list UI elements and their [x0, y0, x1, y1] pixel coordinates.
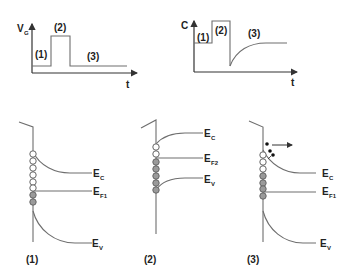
ev-label-sub: V [211, 181, 215, 187]
vg-y-label-sub: G [24, 30, 29, 36]
ev-label: E [204, 174, 211, 185]
empty-state [260, 166, 266, 172]
vg-phase-1: (1) [35, 49, 47, 60]
ec-label-sub: C [329, 175, 334, 181]
dlts-diagram: V G t (1) (2) (3) C t (1) (2) (3) [0, 0, 351, 278]
c-y-label: C [181, 20, 188, 31]
empty-state [30, 179, 36, 185]
diagram-1-label: (1) [26, 254, 38, 265]
filled-state [153, 159, 159, 165]
empty-state [30, 158, 36, 164]
band-diagram-3: E C E F1 E V (3) [247, 121, 337, 265]
c-recovery-transient [230, 43, 287, 66]
interface-states [30, 151, 36, 205]
ef-label: E [204, 153, 211, 164]
empty-state [30, 151, 36, 157]
empty-state [153, 144, 159, 150]
filled-state [260, 173, 266, 179]
ec-label: E [204, 128, 211, 139]
ec-label-sub: C [100, 175, 105, 181]
valence-band-edge [263, 211, 316, 243]
empty-state [30, 185, 36, 191]
electron-dot [271, 153, 275, 157]
filled-state [260, 180, 266, 186]
ef-label-sub: F1 [329, 193, 337, 199]
filled-state [30, 192, 36, 198]
diagram-3-label: (3) [247, 254, 259, 265]
vg-x-label: t [126, 79, 130, 90]
vg-y-label: V [17, 23, 24, 34]
diagram-2-label: (2) [144, 254, 156, 265]
band-diagram-1: E C E F1 E V (1) [19, 122, 108, 265]
ev-label-sub: V [99, 245, 103, 251]
c-x-label: t [291, 77, 295, 88]
filled-state [30, 199, 36, 205]
c-phase-1: (1) [197, 32, 209, 43]
ec-label-sub: C [211, 135, 216, 141]
vg-phase-3: (3) [87, 51, 99, 62]
filled-state [260, 186, 266, 192]
filled-state [153, 166, 159, 172]
empty-state [260, 152, 266, 158]
valence-band-edge [33, 211, 92, 243]
band-diagram-2: E C E F2 E V (2) [141, 120, 219, 265]
filled-state [153, 173, 159, 179]
empty-state [30, 165, 36, 171]
empty-state [260, 159, 266, 165]
ef-label-sub: F2 [211, 160, 219, 166]
emitted-electrons [265, 142, 292, 159]
interface-states [153, 144, 159, 193]
capacitance-plot: C t (1) (2) (3) [181, 20, 297, 88]
ev-label: E [92, 238, 99, 249]
ef-label: E [93, 186, 100, 197]
ev-label-sub: V [327, 245, 331, 251]
vg-phase-2: (2) [54, 22, 66, 33]
ef-label: E [322, 186, 329, 197]
filled-state [153, 187, 159, 193]
filled-state [153, 180, 159, 186]
electron-dot [265, 142, 269, 146]
valence-band-edge [156, 178, 203, 190]
ec-label: E [322, 168, 329, 179]
conduction-band-edge [156, 133, 203, 144]
c-phase-3: (3) [248, 28, 260, 39]
c-phase-2: (2) [215, 25, 227, 36]
conduction-band-edge [33, 152, 92, 173]
ev-label: E [320, 238, 327, 249]
empty-state [153, 151, 159, 157]
filled-state [260, 193, 266, 199]
ef-label-sub: F1 [100, 193, 108, 199]
ec-label: E [93, 168, 100, 179]
conduction-band-edge [263, 150, 316, 173]
electron-dot [268, 149, 272, 153]
empty-state [30, 172, 36, 178]
gate-voltage-plot: V G t (1) (2) (3) [17, 22, 137, 90]
